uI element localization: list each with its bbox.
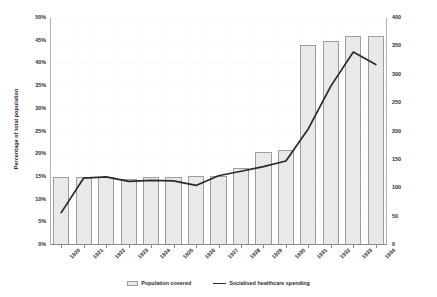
y-axis-left-tick-label: 15% (35, 174, 46, 179)
x-axis-tick-label: 1925 (181, 247, 194, 260)
x-axis-tick-label: 1926 (204, 247, 217, 260)
x-axis-tick (174, 245, 175, 248)
x-axis-tick-label: 1932 (338, 247, 351, 260)
y-axis-left-tick-label: 20% (35, 151, 46, 156)
y-axis-right-tick-label: 300 (392, 72, 401, 77)
x-axis-tick (241, 245, 242, 248)
x-axis-tick-label: 1928 (248, 247, 261, 260)
x-axis-tick-label: 1921 (91, 247, 104, 260)
x-axis-tick (286, 245, 287, 248)
x-axis-tick (61, 245, 62, 248)
x-axis-tick (263, 245, 264, 248)
y-axis-right-tick-label: 100 (392, 185, 401, 190)
y-axis-left-tick-label: 45% (35, 38, 46, 43)
x-axis-tick (308, 245, 309, 248)
plot-frame (50, 18, 387, 245)
y-axis-left-tick-label: 35% (35, 83, 46, 88)
x-axis-tick-label: 1931 (316, 247, 329, 260)
x-axis-tick-label: 1927 (226, 247, 239, 260)
y-axis-left-tick-label: 40% (35, 60, 46, 65)
plot-area (50, 18, 387, 245)
y-axis-right-ticks: 050100150200250300350400 (392, 0, 422, 297)
y-axis-left-tick-label: 5% (38, 219, 46, 224)
x-axis-tick-label: 1920 (69, 247, 82, 260)
x-axis-tick (353, 245, 354, 248)
y-axis-right-tick-label: 150 (392, 157, 401, 162)
x-axis-labels: 1920192119221923192419251926192719281929… (50, 245, 387, 275)
y-axis-left-tick-label: 10% (35, 197, 46, 202)
legend-label-population-covered: Population covered (141, 280, 191, 286)
x-axis-tick-label: 1923 (136, 247, 149, 260)
y-axis-right-tick-label: 50 (392, 214, 398, 219)
x-axis-tick (84, 245, 85, 248)
x-axis-tick-label: 1930 (293, 247, 306, 260)
y-axis-left-ticks: 0%5%10%15%20%25%30%35%40%45%50% (19, 0, 46, 297)
chart-legend: Population covered Socialised healthcare… (0, 276, 437, 290)
y-axis-left-tick-label: 30% (35, 106, 46, 111)
legend-item-socialised-healthcare-spending: Socialised healthcare spending (213, 280, 310, 286)
x-axis-tick-label: 1933 (361, 247, 374, 260)
y-axis-right-tick-label: 350 (392, 43, 401, 48)
x-axis-tick (151, 245, 152, 248)
y-axis-right-tick-label: 200 (392, 129, 401, 134)
x-axis-tick (129, 245, 130, 248)
x-axis-tick (376, 245, 377, 248)
y-axis-right-tick-label: 250 (392, 100, 401, 105)
chart-container: Percentage of total population Inflation… (0, 0, 437, 297)
line-swatch-icon (213, 283, 226, 284)
legend-item-population-covered: Population covered (127, 280, 191, 286)
y-axis-left-tick-label: 50% (35, 15, 46, 20)
x-axis-tick-label: 1924 (159, 247, 172, 260)
x-axis-tick (106, 245, 107, 248)
x-axis-tick (196, 245, 197, 248)
x-axis-tick (219, 245, 220, 248)
y-axis-left-tick-label: 0% (38, 242, 46, 247)
y-axis-right-tick-label: 400 (392, 15, 401, 20)
bar-swatch-icon (127, 281, 138, 286)
legend-label-socialised-healthcare-spending: Socialised healthcare spending (229, 280, 310, 286)
x-axis-tick-label: 1922 (114, 247, 127, 260)
x-axis-tick-label: 1929 (271, 247, 284, 260)
y-axis-left-tick-label: 25% (35, 129, 46, 134)
x-axis-tick (331, 245, 332, 248)
